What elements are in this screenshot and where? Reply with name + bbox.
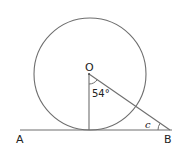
label-A: A xyxy=(16,133,24,146)
label-angle-B: c xyxy=(145,119,151,130)
angle-arc-B xyxy=(158,123,160,130)
label-B: B xyxy=(164,133,172,146)
geometry-diagram: O 54° c A B xyxy=(0,0,186,148)
segment-OB xyxy=(89,74,170,130)
label-O: O xyxy=(85,61,94,74)
angle-arc-O xyxy=(89,80,97,84)
label-angle-O: 54° xyxy=(92,88,110,99)
